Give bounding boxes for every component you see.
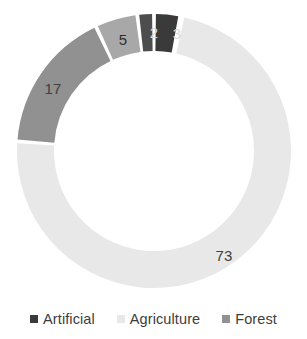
legend-item-forest[interactable]: Forest [222,311,277,327]
donut-plot-area: 7317523 [0,0,307,300]
slice-value-label: 73 [215,247,232,264]
chart-legend: ArtificialAgricultureForest [0,305,307,333]
slice-value-label: 3 [173,25,182,42]
slice-value-label: 17 [44,80,61,97]
legend-swatch-icon [117,315,125,323]
legend-item-label: Forest [235,311,277,327]
legend-item-label: Agriculture [130,311,200,327]
slice-value-label: 2 [150,24,159,41]
legend-item-agriculture[interactable]: Agriculture [117,311,200,327]
legend-swatch-icon [222,315,230,323]
slice-value-label: 5 [119,31,128,48]
legend-swatch-icon [30,315,38,323]
legend-item-label: Artificial [43,311,95,327]
donut-chart: 7317523 ArtificialAgricultureForest [0,0,307,339]
donut-slice[interactable] [17,28,110,143]
donut-svg [0,0,307,300]
legend-item-artificial[interactable]: Artificial [30,311,95,327]
